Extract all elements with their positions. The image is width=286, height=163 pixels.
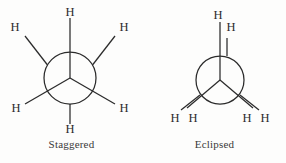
- hydrogen-back-lower-left: H: [170, 112, 179, 125]
- back-bond-upper-right: [93, 36, 116, 65]
- staggered-projection-panel: Staggered HHHHHH: [0, 0, 143, 163]
- back-bond-lower-right: [240, 95, 259, 110]
- back-bond-upper-left: [25, 36, 48, 65]
- hydrogen-front-top: H: [213, 9, 222, 22]
- hydrogen-bottom: H: [65, 123, 74, 136]
- hydrogen-back-top: H: [226, 21, 235, 34]
- hydrogen-lower-left: H: [11, 102, 20, 115]
- back-bond-lower-left: [181, 95, 200, 110]
- hydrogen-upper-right: H: [119, 21, 128, 34]
- hydrogen-top: H: [65, 6, 74, 19]
- eclipsed-projection-panel: Eclipsed HHHHHH: [143, 0, 286, 163]
- hydrogen-front-lower-right: H: [242, 112, 251, 125]
- front-bond-lower-left: [25, 78, 70, 104]
- hydrogen-front-lower-left: H: [188, 112, 197, 125]
- staggered-caption: Staggered: [0, 138, 143, 150]
- eclipsed-caption: Eclipsed: [143, 138, 286, 150]
- newman-projection-figure: Staggered HHHHHH Eclipsed HHHHHH: [0, 0, 286, 163]
- hydrogen-back-lower-right: H: [260, 112, 269, 125]
- hydrogen-upper-left: H: [10, 21, 19, 34]
- front-bond-lower-right: [70, 78, 115, 104]
- hydrogen-lower-right: H: [119, 102, 128, 115]
